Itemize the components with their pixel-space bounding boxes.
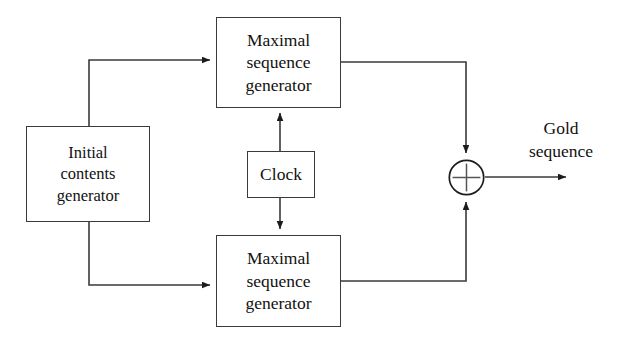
block-maximal-sequence-generator-bottom: Maximal sequence generator (216, 235, 341, 327)
output-label-gold-sequence: Gold sequence (506, 117, 616, 163)
modulo-2-adder-icon (448, 159, 485, 196)
block-maximal-sequence-generator-top: Maximal sequence generator (216, 17, 341, 108)
block-label-line-2: sequence (246, 51, 310, 73)
wire-initial-to-msg-top (89, 60, 210, 126)
block-label-line-2: contents (61, 163, 116, 184)
block-label-line-3: generator (245, 74, 311, 96)
wire-msg-bottom-to-xor (341, 202, 466, 281)
block-label-line-1: Maximal (247, 247, 310, 269)
block-label-line-1: Clock (260, 163, 302, 185)
output-label-line-1: Gold (506, 117, 616, 140)
block-initial-contents-generator: Initial contents generator (26, 126, 150, 222)
gold-sequence-block-diagram: Maximal sequence generator Initial conte… (0, 0, 620, 348)
block-clock: Clock (247, 151, 315, 198)
wire-msg-top-to-xor (341, 62, 466, 153)
wire-initial-to-msg-bottom (89, 221, 210, 285)
block-label-line-1: Initial (68, 142, 107, 163)
block-label-line-2: sequence (246, 270, 310, 292)
output-label-line-2: sequence (506, 140, 616, 163)
block-label-line-3: generator (57, 185, 119, 206)
block-label-line-1: Maximal (247, 29, 310, 51)
block-label-line-3: generator (245, 292, 311, 314)
